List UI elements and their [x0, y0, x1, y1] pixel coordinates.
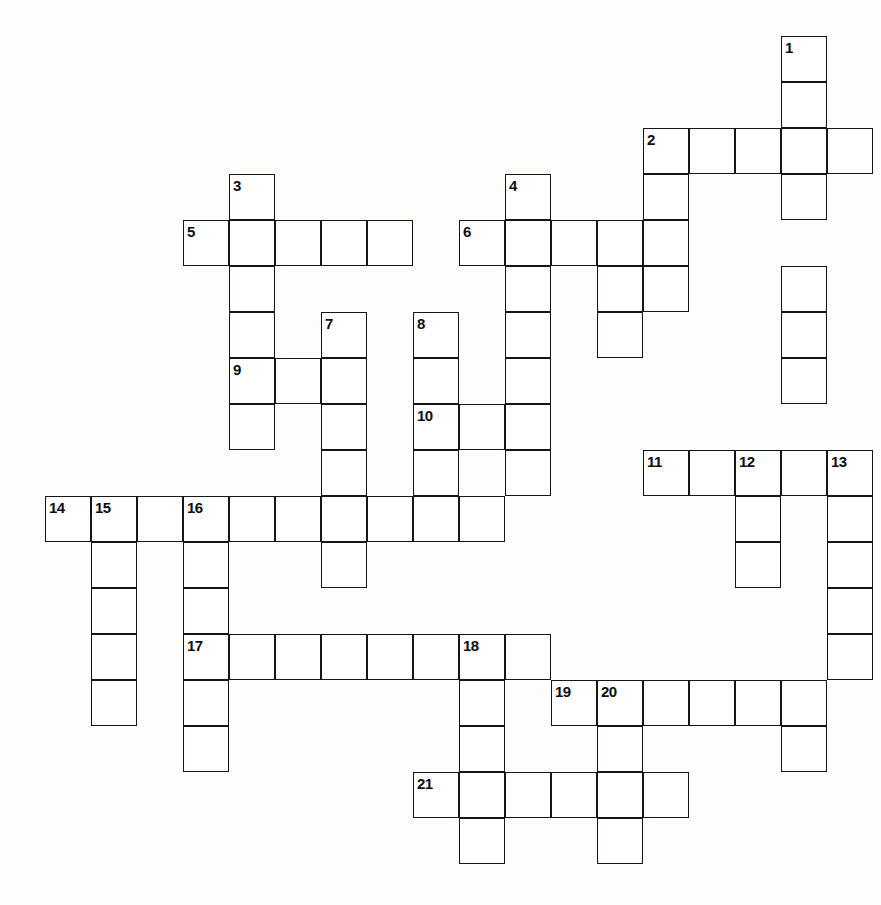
- crossword-cell[interactable]: [229, 358, 275, 404]
- crossword-cell[interactable]: [275, 634, 321, 680]
- crossword-cell[interactable]: [459, 220, 505, 266]
- crossword-cell[interactable]: [643, 680, 689, 726]
- crossword-cell[interactable]: [505, 220, 551, 266]
- crossword-cell[interactable]: [597, 818, 643, 864]
- crossword-cell[interactable]: [689, 680, 735, 726]
- crossword-cell[interactable]: [183, 220, 229, 266]
- crossword-cell[interactable]: [183, 588, 229, 634]
- crossword-cell[interactable]: [91, 634, 137, 680]
- crossword-cell[interactable]: [827, 450, 873, 496]
- crossword-cell[interactable]: [275, 220, 321, 266]
- crossword-cell[interactable]: [597, 312, 643, 358]
- crossword-cell[interactable]: [321, 358, 367, 404]
- crossword-cell[interactable]: [367, 634, 413, 680]
- crossword-cell[interactable]: [367, 220, 413, 266]
- crossword-cell[interactable]: [689, 450, 735, 496]
- crossword-cell[interactable]: [551, 680, 597, 726]
- crossword-cell[interactable]: [781, 266, 827, 312]
- crossword-cell[interactable]: [321, 220, 367, 266]
- crossword-cell[interactable]: [413, 404, 459, 450]
- crossword-cell[interactable]: [505, 312, 551, 358]
- crossword-cell[interactable]: [551, 772, 597, 818]
- crossword-cell[interactable]: [827, 634, 873, 680]
- crossword-cell[interactable]: [735, 542, 781, 588]
- crossword-cell[interactable]: [781, 36, 827, 82]
- crossword-cell[interactable]: [229, 496, 275, 542]
- crossword-cell[interactable]: [183, 496, 229, 542]
- crossword-cell[interactable]: [735, 450, 781, 496]
- crossword-cell[interactable]: [91, 542, 137, 588]
- crossword-cell[interactable]: [413, 358, 459, 404]
- crossword-cell[interactable]: [827, 542, 873, 588]
- crossword-cell[interactable]: [275, 496, 321, 542]
- crossword-cell[interactable]: [137, 496, 183, 542]
- crossword-cell[interactable]: [505, 266, 551, 312]
- crossword-cell[interactable]: [643, 174, 689, 220]
- crossword-grid[interactable]: 123456789101112131415161718192021: [0, 0, 881, 905]
- crossword-cell[interactable]: [183, 680, 229, 726]
- crossword-cell[interactable]: [597, 772, 643, 818]
- crossword-cell[interactable]: [321, 542, 367, 588]
- crossword-cell[interactable]: [781, 726, 827, 772]
- crossword-cell[interactable]: [229, 266, 275, 312]
- crossword-cell[interactable]: [321, 496, 367, 542]
- crossword-cell[interactable]: [413, 772, 459, 818]
- crossword-cell[interactable]: [735, 128, 781, 174]
- crossword-cell[interactable]: [321, 404, 367, 450]
- crossword-cell[interactable]: [735, 496, 781, 542]
- crossword-cell[interactable]: [321, 450, 367, 496]
- crossword-cell[interactable]: [45, 496, 91, 542]
- crossword-cell[interactable]: [643, 128, 689, 174]
- crossword-cell[interactable]: [781, 450, 827, 496]
- crossword-cell[interactable]: [551, 220, 597, 266]
- crossword-cell[interactable]: [321, 634, 367, 680]
- crossword-cell[interactable]: [827, 128, 873, 174]
- crossword-cell[interactable]: [229, 312, 275, 358]
- crossword-cell[interactable]: [183, 542, 229, 588]
- crossword-cell[interactable]: [781, 358, 827, 404]
- crossword-cell[interactable]: [413, 312, 459, 358]
- crossword-cell[interactable]: [321, 312, 367, 358]
- crossword-cell[interactable]: [183, 726, 229, 772]
- crossword-cell[interactable]: [505, 634, 551, 680]
- crossword-cell[interactable]: [413, 634, 459, 680]
- crossword-cell[interactable]: [459, 634, 505, 680]
- crossword-cell[interactable]: [459, 680, 505, 726]
- crossword-cell[interactable]: [229, 174, 275, 220]
- crossword-cell[interactable]: [183, 634, 229, 680]
- crossword-cell[interactable]: [275, 358, 321, 404]
- crossword-cell[interactable]: [597, 680, 643, 726]
- crossword-cell[interactable]: [781, 174, 827, 220]
- crossword-cell[interactable]: [505, 358, 551, 404]
- crossword-cell[interactable]: [827, 588, 873, 634]
- crossword-cell[interactable]: [367, 496, 413, 542]
- crossword-cell[interactable]: [643, 220, 689, 266]
- crossword-cell[interactable]: [643, 266, 689, 312]
- crossword-cell[interactable]: [781, 680, 827, 726]
- crossword-cell[interactable]: [597, 726, 643, 772]
- crossword-cell[interactable]: [413, 450, 459, 496]
- crossword-cell[interactable]: [413, 496, 459, 542]
- crossword-cell[interactable]: [91, 680, 137, 726]
- crossword-cell[interactable]: [229, 404, 275, 450]
- crossword-cell[interactable]: [597, 266, 643, 312]
- crossword-cell[interactable]: [229, 634, 275, 680]
- crossword-cell[interactable]: [505, 174, 551, 220]
- crossword-cell[interactable]: [505, 404, 551, 450]
- crossword-cell[interactable]: [91, 588, 137, 634]
- crossword-cell[interactable]: [459, 404, 505, 450]
- crossword-cell[interactable]: [91, 496, 137, 542]
- crossword-cell[interactable]: [597, 220, 643, 266]
- crossword-cell[interactable]: [459, 496, 505, 542]
- crossword-cell[interactable]: [781, 82, 827, 128]
- crossword-cell[interactable]: [505, 450, 551, 496]
- crossword-cell[interactable]: [643, 772, 689, 818]
- crossword-cell[interactable]: [459, 772, 505, 818]
- crossword-cell[interactable]: [459, 726, 505, 772]
- crossword-cell[interactable]: [735, 680, 781, 726]
- crossword-cell[interactable]: [781, 128, 827, 174]
- crossword-cell[interactable]: [505, 772, 551, 818]
- crossword-cell[interactable]: [689, 128, 735, 174]
- crossword-cell[interactable]: [229, 220, 275, 266]
- crossword-cell[interactable]: [459, 818, 505, 864]
